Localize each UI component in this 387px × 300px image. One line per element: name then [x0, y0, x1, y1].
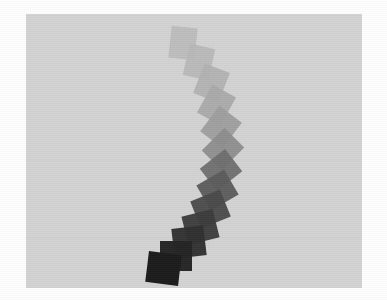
figure-canvas — [0, 0, 387, 300]
link-chain-series — [26, 14, 362, 288]
link-rect-12 — [145, 251, 182, 286]
plot-area — [26, 14, 362, 288]
